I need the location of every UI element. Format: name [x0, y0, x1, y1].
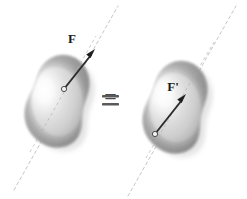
figure-canvas: F = F'	[0, 0, 247, 199]
rigid-body-right	[137, 59, 219, 161]
application-point-right	[152, 131, 157, 136]
equals-sign-glyph: =	[104, 84, 116, 109]
force-label-right: F'	[167, 79, 179, 94]
rigid-body-left	[19, 53, 101, 155]
transmissibility-figure: F = F'	[0, 0, 247, 199]
force-label-left: F	[68, 31, 76, 46]
application-point-left	[61, 86, 66, 91]
equals-sign: =	[102, 84, 119, 109]
